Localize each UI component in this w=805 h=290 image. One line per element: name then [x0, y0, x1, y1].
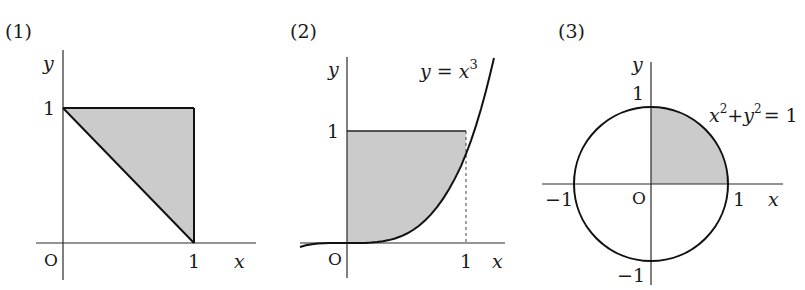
figure-3-origin-label: O [632, 188, 646, 208]
circle-label-x: x [709, 104, 720, 126]
figure-1-x-label: x [234, 250, 245, 272]
figure-2-shaded-region [347, 131, 466, 243]
figure-2-curve-label-exponent: 3 [469, 57, 477, 72]
figure-2-curve-label-lhs: y = x [419, 60, 470, 82]
circle-label-y: y [742, 104, 754, 126]
figure-2-curve-label: y = x3 [419, 57, 478, 82]
figure-3-x-tick-neg: −1 [545, 188, 573, 210]
figure-1-x-tick-1: 1 [188, 250, 200, 272]
figure-2-x-label: x [492, 250, 503, 272]
figure-3-y-tick-pos: 1 [632, 82, 644, 104]
figure-3-label: (3) [558, 20, 585, 42]
figure-3-y-tick-neg: −1 [617, 264, 645, 286]
figure-3-y-label: y [631, 53, 643, 75]
figure-2-y-tick-1: 1 [327, 120, 339, 142]
figure-1-y-tick-1: 1 [43, 97, 55, 119]
figure-1-origin-label: O [44, 250, 58, 270]
figure-2-origin-label: O [328, 249, 342, 269]
circle-label-y-exponent: 2 [754, 102, 762, 116]
figure-1-y-label: y [42, 52, 54, 74]
figure-1-label: (1) [5, 20, 32, 42]
circle-label-rhs: = 1 [764, 104, 798, 126]
figure-2-y-label: y [327, 58, 339, 80]
figure-2: (2) y 1 O 1 x y = x3 [290, 20, 505, 278]
figure-canvas: (1) y 1 O 1 x (2) y 1 O 1 x [0, 0, 805, 290]
figure-3-x-label: x [768, 188, 779, 210]
figure-3-circle-label: x2+y2= 1 [709, 102, 798, 126]
circle-label-x-exponent: 2 [720, 102, 728, 116]
figure-3: (3) y 1 −1 O 1 x −1 x2+y2= 1 [542, 20, 798, 286]
figure-3-x-tick-pos: 1 [733, 188, 745, 210]
figure-2-label: (2) [290, 20, 317, 42]
circle-label-plus: + [727, 104, 743, 126]
figure-1: (1) y 1 O 1 x [5, 20, 256, 280]
figure-2-x-tick-1: 1 [460, 250, 472, 272]
